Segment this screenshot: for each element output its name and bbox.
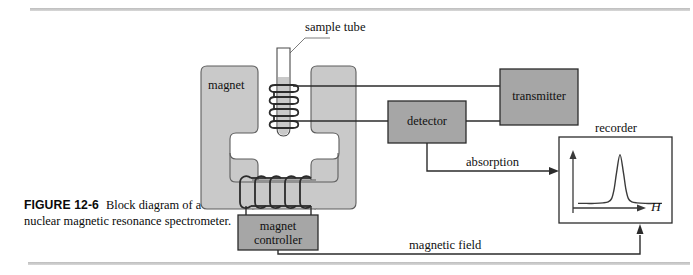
magnetic-field-label: magnetic field [409, 238, 481, 253]
magnet-controller-label-line2: controller [238, 233, 318, 247]
magnet-label: magnet [208, 78, 244, 93]
magnet-controller-label-line1: magnet [238, 219, 318, 233]
figure-nmr-block-diagram: sample tube magnet magnet controller det… [0, 0, 693, 275]
absorption-label: absorption [466, 155, 519, 170]
recorder-x-axis-label: H [651, 199, 661, 215]
magnet-controller-label: magnet controller [238, 219, 318, 247]
detector-label: detector [388, 114, 466, 129]
transmitter-label: transmitter [500, 89, 578, 104]
figure-caption: FIGURE 12-6Block diagram of a nuclear ma… [24, 198, 234, 229]
figure-caption-number: FIGURE 12-6 [24, 198, 99, 212]
absorption-arrowhead [549, 167, 559, 175]
diagram-canvas [0, 0, 693, 275]
magnetic-field-arrowhead [637, 224, 644, 234]
figure-caption-lead: Block [106, 198, 136, 212]
sample-tube-label: sample tube [305, 20, 366, 35]
recorder-label: recorder [580, 121, 652, 136]
